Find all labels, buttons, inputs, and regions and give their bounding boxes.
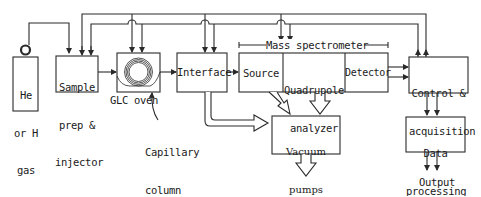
output-label: Output [407, 176, 467, 189]
gas-label-line3: gas [13, 164, 39, 177]
sample-prep-line3: injector [55, 156, 99, 169]
detector-label: Detector [345, 67, 388, 80]
interface-label: Interface [177, 66, 227, 79]
sample-prep-label: Sample prep & injector [55, 56, 99, 181]
vacuum-pumps-label: Vacuum pumps [272, 121, 340, 196]
capillary-line2: column [145, 184, 205, 197]
sample-prep-line1: Sample [55, 81, 99, 94]
capillary-coil-icon [117, 58, 160, 86]
sample-prep-line2: prep & [55, 119, 99, 132]
gas-valve-icon [21, 46, 30, 55]
quadrupole-line1: Quadrupole [283, 84, 345, 97]
source-label: Source [239, 67, 283, 80]
glc-oven-label: GLC oven [104, 94, 164, 107]
gas-supply-line [29, 23, 69, 53]
capillary-column-label: Capillary column [145, 121, 205, 196]
gas-label-line1: He [13, 89, 39, 102]
interface-vacuum-arrow [205, 92, 268, 131]
capillary-line1: Capillary [145, 146, 205, 159]
data-processing-line1: Data [406, 147, 465, 160]
gas-label-line2: or H [13, 127, 39, 140]
vacuum-pumps-line2: pumps [272, 184, 340, 197]
gas-label: He or H gas [13, 64, 39, 189]
vacuum-pumps-line1: Vacuum [272, 146, 340, 159]
control-line1: Control & [409, 87, 468, 100]
mass-spectrometer-label: Mass spectrometer [266, 39, 364, 52]
control-bus-lower [91, 20, 418, 56]
